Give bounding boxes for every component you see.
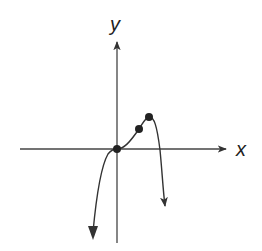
local-max-point: [145, 113, 153, 121]
function-curve: [93, 117, 165, 232]
left-arrowhead-icon: [88, 226, 98, 240]
inflection-point: [135, 125, 143, 133]
x-axis-label: x: [236, 139, 246, 159]
origin-point: [113, 145, 121, 153]
y-axis-label: y: [110, 14, 120, 34]
function-graph: [0, 0, 262, 251]
